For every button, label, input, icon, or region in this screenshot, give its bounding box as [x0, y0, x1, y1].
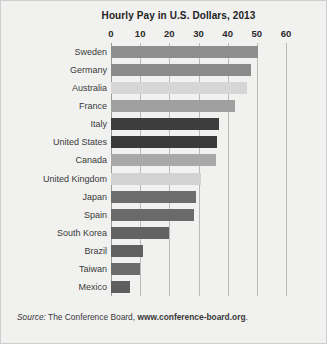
bar-brazil — [111, 245, 143, 257]
bar-row: Spain — [1, 206, 327, 224]
category-label-germany: Germany — [70, 65, 107, 75]
source-body: The Conference Board, — [46, 312, 138, 322]
category-label-italy: Italy — [90, 119, 107, 129]
bar-france — [111, 100, 235, 112]
bar-australia — [111, 82, 247, 94]
category-label-united-kingdom: United Kingdom — [43, 174, 107, 184]
bar-united-kingdom — [111, 173, 201, 185]
category-label-japan: Japan — [82, 192, 107, 202]
bar-row: Taiwan — [1, 260, 327, 278]
category-label-brazil: Brazil — [84, 246, 107, 256]
bar-south-korea — [111, 227, 169, 239]
bar-row: Italy — [1, 115, 327, 133]
bar-row: France — [1, 97, 327, 115]
source-note: Source: The Conference Board, www.confer… — [17, 312, 248, 322]
bar-row: Germany — [1, 61, 327, 79]
x-axis-tick-labels: 0102030405060 — [111, 28, 286, 41]
bar-row: Japan — [1, 188, 327, 206]
bar-row: Sweden — [1, 43, 327, 61]
bar-japan — [111, 191, 196, 203]
x-tick-label-30: 30 — [193, 28, 204, 39]
source-url[interactable]: www.conference-board.org — [137, 312, 245, 322]
bar-canada — [111, 154, 216, 166]
bar-sweden — [111, 46, 258, 58]
source-label: Source: — [17, 312, 46, 322]
category-label-australia: Australia — [72, 83, 107, 93]
source-period: . — [246, 312, 248, 322]
bar-mexico — [111, 281, 130, 293]
bar-united-states — [111, 136, 217, 148]
category-label-sweden: Sweden — [74, 47, 107, 57]
bar-italy — [111, 118, 219, 130]
bar-row: South Korea — [1, 224, 327, 242]
x-tick-label-60: 60 — [281, 28, 292, 39]
category-label-taiwan: Taiwan — [79, 264, 107, 274]
bar-row: United Kingdom — [1, 170, 327, 188]
category-label-united-states: United States — [53, 137, 107, 147]
bar-rows: SwedenGermanyAustraliaFranceItalyUnited … — [1, 43, 327, 296]
category-label-mexico: Mexico — [78, 282, 107, 292]
x-tick-label-40: 40 — [222, 28, 233, 39]
x-tick-label-0: 0 — [108, 28, 113, 39]
x-tick-label-20: 20 — [164, 28, 175, 39]
category-label-france: France — [79, 101, 107, 111]
bar-germany — [111, 64, 251, 76]
bar-spain — [111, 209, 194, 221]
bar-row: Mexico — [1, 278, 327, 296]
bar-row: Canada — [1, 151, 327, 169]
bar-taiwan — [111, 263, 140, 275]
category-label-canada: Canada — [75, 155, 107, 165]
chart-title: Hourly Pay in U.S. Dollars, 2013 — [1, 10, 327, 21]
category-label-spain: Spain — [84, 210, 107, 220]
bar-row: United States — [1, 133, 327, 151]
chart-figure: Hourly Pay in U.S. Dollars, 2013 0102030… — [0, 0, 327, 344]
bar-row: Brazil — [1, 242, 327, 260]
category-label-south-korea: South Korea — [57, 228, 107, 238]
x-tick-label-50: 50 — [252, 28, 263, 39]
bar-row: Australia — [1, 79, 327, 97]
x-tick-label-10: 10 — [135, 28, 146, 39]
